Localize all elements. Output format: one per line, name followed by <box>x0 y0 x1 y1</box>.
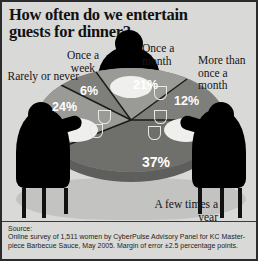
value-once-a-month: 21% <box>133 78 158 92</box>
source-heading: Source: <box>8 225 254 233</box>
illustration-scene: Once a week Rarely or never Once a month… <box>2 2 258 232</box>
chair-leg <box>42 188 46 218</box>
chair-leg <box>22 188 26 218</box>
value-a-few-times-a-year: 37% <box>142 154 170 170</box>
value-once-a-week: 6% <box>80 84 98 98</box>
wine-glass-icon <box>98 110 111 124</box>
source-line-2: piece Barbecue Sauce, May 2005. Margin o… <box>8 242 254 250</box>
wine-glass-icon <box>148 126 161 140</box>
label-more-than-once-a-month: More than once a month <box>198 54 258 92</box>
wine-glass-icon <box>154 110 167 124</box>
chair-leg <box>64 188 68 214</box>
label-once-a-month: Once a month <box>142 42 196 67</box>
label-a-few-times-a-year: A few times a year <box>134 198 218 223</box>
label-rarely-or-never: Rarely or never <box>5 70 79 83</box>
chair-leg <box>220 188 224 218</box>
value-more-than-once-a-month: 12% <box>174 94 199 108</box>
wine-glass-icon <box>90 124 103 138</box>
source-line-1: Online survey of 1,511 women by CyberPul… <box>8 233 254 241</box>
infographic-panel: How often do we entertain guests for din… <box>0 0 258 261</box>
source-note: Source: Online survey of 1,511 women by … <box>2 221 258 259</box>
value-rarely-or-never: 24% <box>52 100 77 114</box>
chair-leg <box>238 188 242 218</box>
